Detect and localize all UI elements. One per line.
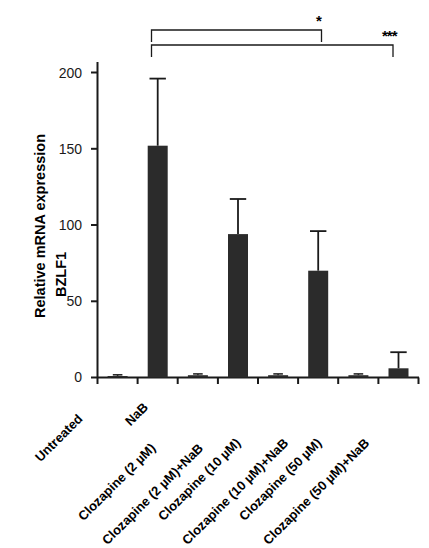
bar-group-clozapine-2um-nab	[228, 199, 248, 378]
bar-group-clozapine-2um	[188, 374, 208, 378]
significance-bracket-1	[152, 30, 322, 42]
bar-clozapine-2um	[188, 375, 208, 377]
y-axis-title-line1: Relative mRNA expression	[32, 134, 48, 318]
y-axis-ticks	[91, 73, 97, 378]
bar-group-clozapine-50um-nab	[389, 352, 409, 377]
bar-group-nab	[148, 79, 168, 378]
y-tick-label-100: 100	[48, 217, 82, 233]
bar-clozapine-50um	[348, 375, 368, 377]
bar-group-clozapine-50um	[348, 374, 368, 378]
bar-clozapine-2um-nab	[228, 234, 248, 377]
bar-clozapine-10um-nab	[308, 271, 328, 378]
bar-group-untreated	[108, 375, 128, 378]
bar-clozapine-50um-nab	[389, 368, 409, 377]
bar-untreated	[108, 376, 128, 378]
y-tick-label-0: 0	[48, 369, 82, 385]
significance-star-single: *	[316, 12, 321, 29]
significance-star-triple: ***	[382, 27, 397, 44]
significance-bracket-2	[152, 45, 394, 57]
bar-clozapine-10um	[268, 375, 288, 377]
bar-group-clozapine-10um-nab	[308, 231, 328, 377]
y-tick-label-200: 200	[48, 65, 82, 81]
y-axis-title-line2: BZLF1	[53, 252, 69, 297]
bar-group-clozapine-10um	[268, 374, 288, 378]
y-tick-label-150: 150	[48, 141, 82, 157]
bar-nab	[148, 146, 168, 378]
